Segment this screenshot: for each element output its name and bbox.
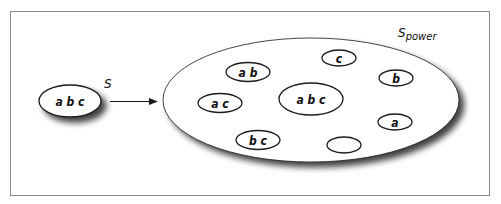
subset-abc: a b c xyxy=(279,83,343,115)
power-set-label: Spower xyxy=(398,26,437,42)
svg-text:a b c: a b c xyxy=(297,93,327,107)
subset-ac: a c xyxy=(198,94,242,113)
subset-b: b xyxy=(379,70,413,86)
svg-text:a b: a b xyxy=(239,66,258,80)
source-set-label: S xyxy=(104,77,112,91)
svg-text:b: b xyxy=(392,72,400,86)
subset-c: c xyxy=(322,50,356,66)
svg-text:c: c xyxy=(336,52,343,66)
subset-ab: a b xyxy=(226,63,270,82)
source-set: a b c S xyxy=(39,77,112,117)
svg-text:a c: a c xyxy=(211,97,229,111)
source-set-elements: a b c xyxy=(56,95,86,109)
power-set-diagram: a b c S Spower a b c b a c a b c a xyxy=(0,0,501,204)
svg-text:a: a xyxy=(391,116,398,130)
subset-bc: b c xyxy=(236,131,280,150)
power-set: Spower a b c b a c a b c a b c xyxy=(163,26,459,162)
svg-text:b c: b c xyxy=(249,134,267,148)
subset-empty xyxy=(327,137,361,153)
subset-a: a xyxy=(378,114,412,130)
